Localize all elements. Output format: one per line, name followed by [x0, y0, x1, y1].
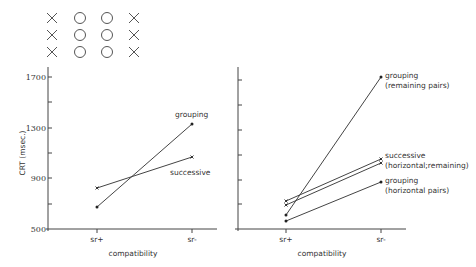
ytick-900: 900 — [31, 174, 46, 183]
dot-marker — [380, 181, 383, 184]
stimulus-x-icon — [129, 47, 139, 57]
ytick-1700: 1700 — [26, 73, 46, 82]
y-axis-label: CRT (msec.) — [18, 130, 27, 175]
ytick-500: 500 — [31, 225, 46, 234]
right-panel — [235, 67, 406, 233]
left-x-axis-label: compatibility — [109, 249, 158, 258]
right-successive-sublabel: (horizontal;remaining) — [385, 161, 469, 170]
dot-marker — [380, 76, 383, 79]
stimulus-x-icon — [47, 13, 57, 23]
stimulus-o-icon — [102, 47, 113, 58]
stimulus-x-icon — [129, 13, 139, 23]
left-successive-label: successive — [170, 168, 211, 177]
right-xtick-srminus: sr- — [376, 235, 386, 244]
stimulus-o-icon — [75, 30, 86, 41]
right-successive-label: successive — [385, 151, 426, 160]
right-markers — [285, 76, 383, 223]
dot-marker — [191, 123, 194, 126]
stimulus-o-icon — [102, 30, 113, 41]
right-grouping-horizontal-label: grouping — [385, 176, 419, 185]
right-xtick-srplus: sr+ — [279, 235, 292, 244]
stimulus-x-icon — [47, 47, 57, 57]
right-grouping-remaining-sublabel: (remaining pairs) — [385, 81, 450, 90]
left-xtick-srminus: sr- — [187, 235, 197, 244]
left-y-ticks — [48, 77, 52, 204]
stimulus-o-icon — [75, 47, 86, 58]
right-grouping-remaining-label: grouping — [385, 71, 419, 80]
right-successive-remaining-line — [286, 163, 381, 205]
left-xtick-srplus: sr+ — [90, 235, 103, 244]
stimulus-o-icon — [102, 13, 113, 24]
stimulus-x-icon — [47, 30, 57, 40]
right-successive-horizontal-line — [286, 159, 381, 201]
right-grouping-horizontal-sublabel: (horizontal pairs) — [385, 186, 449, 195]
stimulus-grid — [47, 13, 139, 58]
right-grouping-horizontal-line — [286, 182, 381, 221]
dot-marker — [285, 220, 288, 223]
right-y-ticks — [238, 80, 242, 204]
dot-marker — [96, 206, 99, 209]
left-grouping-label: grouping — [175, 110, 209, 119]
stimulus-o-icon — [75, 13, 86, 24]
figure: 1700 1300 900 500 CRT (msec.) sr+ sr- co… — [0, 0, 476, 267]
left-grouping-line — [97, 124, 192, 207]
stimulus-x-icon — [129, 30, 139, 40]
left-panel — [46, 67, 217, 233]
ytick-1300: 1300 — [26, 124, 46, 133]
right-x-axis-label: compatibility — [298, 249, 347, 258]
dot-marker — [285, 214, 288, 217]
